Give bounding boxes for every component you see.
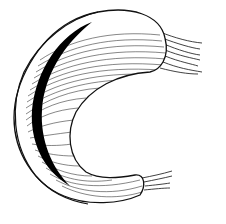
posterior-horn-fibers xyxy=(142,171,172,190)
meniscus-illustration xyxy=(0,0,226,224)
